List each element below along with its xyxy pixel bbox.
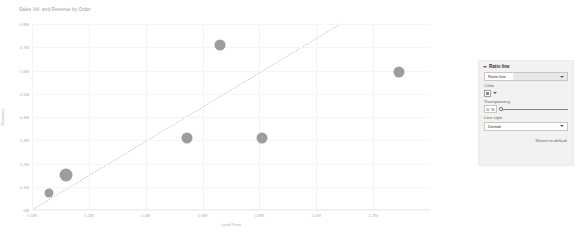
scatter-point[interactable]	[59, 168, 72, 181]
color-picker[interactable]	[484, 90, 568, 97]
line-style-value: Dotted	[488, 124, 501, 129]
gridline-horizontal	[32, 47, 430, 48]
y-axis-tick-label: 0M	[23, 208, 29, 213]
chevron-down-icon	[560, 125, 564, 127]
y-axis-tick-label: 0.7M	[20, 45, 29, 50]
ratio-line-select-value: Ratio line	[488, 74, 506, 79]
revert-to-default-link[interactable]: Revert to default	[484, 138, 568, 143]
color-swatch-icon[interactable]	[484, 90, 491, 97]
transparency-unit: %	[491, 107, 495, 112]
x-axis-tick-label: 1.2M	[368, 213, 377, 218]
y-axis-tick-label: 0.3M	[20, 138, 29, 143]
chevron-down-icon	[560, 76, 564, 78]
slider-track	[502, 109, 568, 110]
scatter-point[interactable]	[45, 188, 54, 197]
line-style-select[interactable]: Dotted	[484, 122, 568, 131]
panel-body: Ratio line Color Transparency 0 % Line	[479, 72, 573, 143]
y-axis-tick-label: 0.5M	[20, 91, 29, 96]
y-axis-tick-labels: 0M0.1M0.2M0.3M0.4M0.5M0.6M0.7M0.8M	[6, 24, 29, 210]
x-axis-title: Lead Price	[32, 222, 430, 227]
line-style-label: Line style	[484, 115, 568, 120]
y-axis-title: Revenue	[0, 108, 5, 125]
gridline-horizontal	[32, 187, 430, 188]
scatter-chart-visual[interactable]: Sales Vol. and Revenue by Order ⋯ 0M0.1M…	[0, 0, 460, 238]
transparency-control[interactable]: 0 %	[484, 105, 568, 113]
color-label: Color	[484, 83, 568, 88]
gridline-horizontal	[32, 71, 430, 72]
transparency-value: 0	[487, 107, 489, 112]
y-axis-tick-label: 0.8M	[20, 22, 29, 27]
chevron-down-icon[interactable]	[493, 92, 497, 94]
ratio-line-select[interactable]: Ratio line	[484, 72, 568, 81]
y-axis-tick-label: 0.1M	[20, 184, 29, 189]
gridline-horizontal	[32, 24, 430, 25]
gridline-horizontal	[32, 164, 430, 165]
plot-area	[32, 24, 430, 210]
y-axis-tick-label: 0.6M	[20, 68, 29, 73]
x-axis-tick-label: 0.4M	[141, 213, 150, 218]
x-axis-tick-label: 0.2M	[84, 213, 93, 218]
y-axis-tick-label: 0.2M	[20, 161, 29, 166]
screen-root: Sales Vol. and Revenue by Order ⋯ 0M0.1M…	[0, 0, 577, 238]
x-axis-tick-label: 0.6M	[198, 213, 207, 218]
scatter-point[interactable]	[214, 39, 225, 50]
gridline-horizontal	[32, 117, 430, 118]
y-axis-tick-label: 0.4M	[20, 115, 29, 120]
gridline-horizontal	[32, 140, 430, 141]
panel-header[interactable]: Ratio line	[479, 61, 573, 72]
chevron-down-icon	[483, 66, 487, 68]
scatter-point[interactable]	[393, 66, 404, 77]
scatter-point[interactable]	[257, 132, 268, 143]
transparency-stepper[interactable]: 0 %	[484, 105, 497, 113]
x-axis-tick-label: 1.0M	[312, 213, 321, 218]
transparency-slider[interactable]	[499, 105, 568, 113]
transparency-label: Transparency	[484, 99, 568, 104]
x-axis-tick-label: 0.0M	[27, 213, 36, 218]
ratio-line-format-panel: Ratio line Ratio line Color Transparency…	[478, 60, 574, 166]
gridline-horizontal	[32, 94, 430, 95]
ellipsis-icon[interactable]: ⋯	[80, 8, 85, 13]
gridline-horizontal	[32, 210, 430, 211]
x-axis-tick-label: 0.8M	[255, 213, 264, 218]
scatter-point[interactable]	[181, 132, 192, 143]
panel-header-label: Ratio line	[489, 64, 510, 69]
slider-thumb[interactable]	[499, 107, 503, 111]
